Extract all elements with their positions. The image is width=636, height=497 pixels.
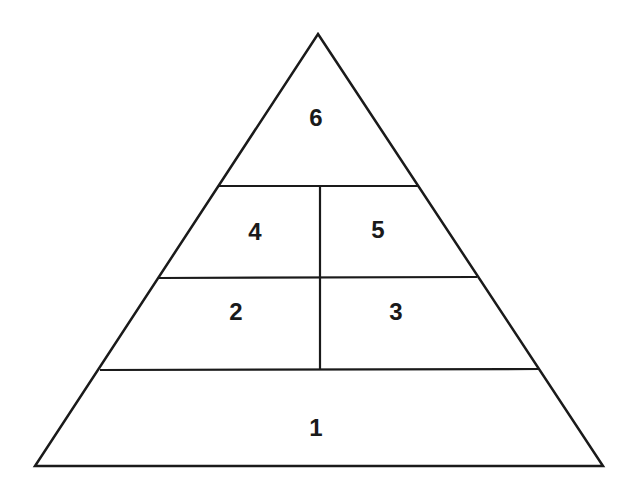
tier-label-5: 5: [371, 218, 384, 242]
tier-divider-middle: [159, 277, 477, 278]
tier-label-6: 6: [309, 106, 322, 130]
tier-label-2: 2: [229, 300, 242, 324]
tier-label-1: 1: [309, 416, 322, 440]
tier-label-3: 3: [389, 300, 402, 324]
tier-label-4: 4: [248, 220, 261, 244]
